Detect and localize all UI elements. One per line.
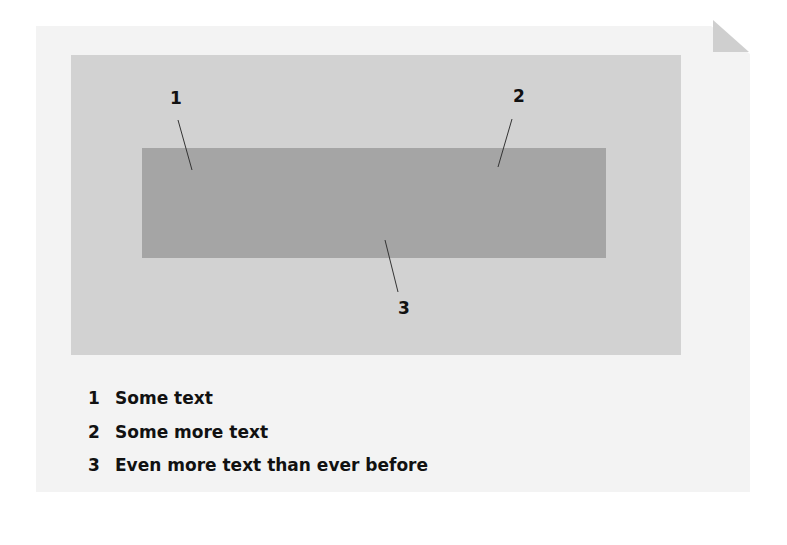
- callout-1: 1: [170, 90, 182, 107]
- legend-item: 2 Some more text: [88, 422, 428, 455]
- legend-text: Even more text than ever before: [115, 455, 428, 475]
- folded-corner-icon: [711, 20, 749, 55]
- legend-text: Some text: [115, 388, 213, 408]
- inner-rectangle: [142, 148, 606, 258]
- legend-number: 1: [88, 388, 115, 408]
- legend: 1 Some text 2 Some more text 3 Even more…: [88, 388, 428, 489]
- legend-number: 2: [88, 422, 115, 442]
- diagram-canvas: 1 2 3 1 Some text 2 Some more text 3 Eve…: [0, 0, 787, 545]
- legend-number: 3: [88, 455, 115, 475]
- legend-text: Some more text: [115, 422, 268, 442]
- legend-item: 3 Even more text than ever before: [88, 455, 428, 489]
- legend-item: 1 Some text: [88, 388, 428, 422]
- callout-3: 3: [398, 300, 410, 317]
- callout-2: 2: [513, 88, 525, 105]
